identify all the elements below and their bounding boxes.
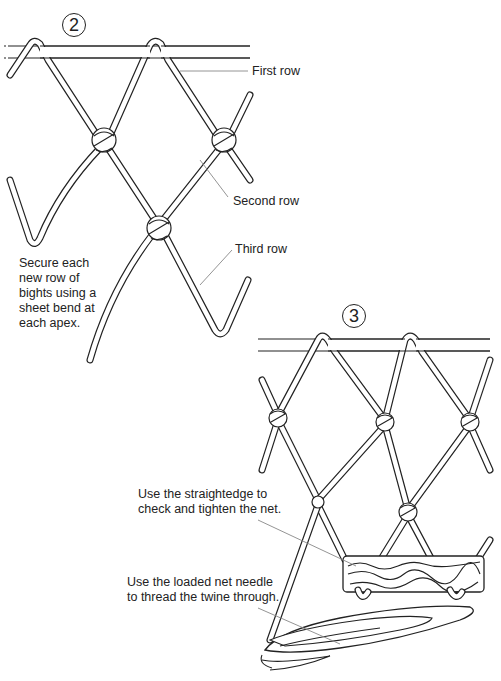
sheet-bend-knot	[376, 413, 394, 431]
sheet-bend-knot	[147, 216, 171, 240]
half-knot	[312, 496, 324, 508]
label-line: Use the loaded net needle	[127, 575, 279, 590]
caption-line: bights using a	[19, 286, 96, 301]
step-number-3: 3	[342, 304, 366, 328]
caption-line: Secure each	[19, 256, 96, 271]
second-row-cords	[10, 148, 250, 244]
sheet-bend-knot	[399, 503, 417, 521]
label-line: to thread the twine through.	[127, 590, 279, 605]
straightedge-board	[343, 556, 484, 597]
label-straightedge: Use the straightedge to check and tighte…	[138, 487, 281, 517]
caption-line: new row of	[19, 271, 96, 286]
sheet-bend-knot	[461, 413, 479, 431]
caption-line: sheet bend at	[19, 301, 96, 316]
label-line: check and tighten the net.	[138, 502, 281, 517]
first-row-cords	[10, 41, 250, 140]
panel-3-drawing	[258, 336, 490, 670]
label-third-row: Third row	[235, 242, 287, 257]
sheet-bend-knot	[269, 409, 287, 427]
caption-line: each apex.	[19, 316, 96, 331]
third-row-cords	[90, 235, 248, 360]
leader-second-row	[200, 160, 228, 197]
net-needle	[261, 606, 473, 670]
caption-sheet-bend: Secure each new row of bights using a sh…	[19, 256, 96, 331]
step-number-2: 2	[62, 13, 86, 37]
label-line: Use the straightedge to	[138, 487, 281, 502]
sheet-bend-knot	[212, 128, 236, 152]
leader-third-row	[200, 250, 232, 285]
label-first-row: First row	[252, 64, 300, 79]
label-second-row: Second row	[233, 194, 299, 209]
label-net-needle: Use the loaded net needle to thread the …	[127, 575, 279, 605]
sheet-bend-knot	[92, 128, 116, 152]
